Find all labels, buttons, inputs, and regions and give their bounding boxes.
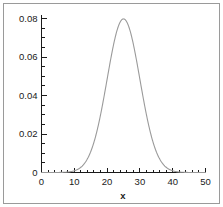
x-tick-label: 0 xyxy=(39,176,44,187)
y-tick-label: 0.08 xyxy=(19,13,38,24)
x-axis-tick-labels: 01020304050 xyxy=(39,176,211,187)
figure-container: 01020304050 00.020.040.060.08 x xyxy=(0,0,223,207)
x-tick-label: 10 xyxy=(69,176,80,187)
gaussian-curve xyxy=(42,19,206,173)
x-tick-label: 40 xyxy=(167,176,178,187)
y-axis-tick-labels: 00.020.040.060.08 xyxy=(19,13,38,178)
x-tick-label: 30 xyxy=(135,176,146,187)
x-axis-title: x xyxy=(120,190,126,201)
y-axis-major-ticks xyxy=(42,19,47,173)
y-tick-label: 0.06 xyxy=(19,51,38,62)
y-tick-label: 0.02 xyxy=(19,128,38,139)
x-tick-label: 50 xyxy=(200,176,211,187)
y-tick-label: 0 xyxy=(32,167,37,178)
y-tick-label: 0.04 xyxy=(19,90,38,101)
plot-area: 01020304050 00.020.040.060.08 x xyxy=(0,0,223,207)
x-tick-label: 20 xyxy=(102,176,113,187)
